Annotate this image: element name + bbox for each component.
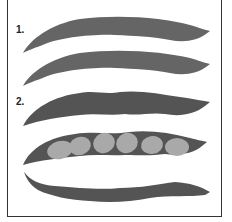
pod-2a [23, 91, 210, 126]
pod-1b [23, 51, 210, 86]
pod-2c [24, 172, 210, 202]
pods-illustration [0, 0, 232, 222]
pod-1a [23, 17, 210, 53]
